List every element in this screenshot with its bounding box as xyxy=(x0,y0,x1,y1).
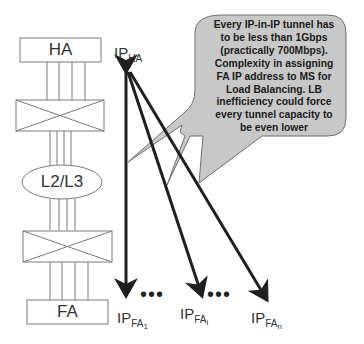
ip-fan-index: n xyxy=(277,322,281,331)
ip-ha-sub: HA xyxy=(128,53,142,64)
switch-box-bottom xyxy=(23,231,112,262)
switch-box-top xyxy=(16,100,104,131)
callout-text: Every IP-in-IP tunnel has to be less tha… xyxy=(208,19,340,135)
ip-fai-label: IPFAi xyxy=(180,305,208,327)
ip-fan-base: IP xyxy=(251,309,265,326)
ip-fai-sub: FA xyxy=(194,314,206,325)
ip-fan-sub: FA xyxy=(265,318,277,329)
ip-fai-index: i xyxy=(206,318,208,327)
ha-links xyxy=(47,62,85,100)
ip-fa1-sub: FA xyxy=(131,318,143,329)
ip-fa1-index: 1 xyxy=(143,322,147,331)
ip-fa1-label: IPFA1 xyxy=(117,309,148,331)
router-to-switch-links xyxy=(50,199,75,230)
ha-label: HA xyxy=(20,40,101,60)
fa-label: FA xyxy=(27,302,108,322)
fa-links xyxy=(50,262,88,300)
ip-ha-base: IP xyxy=(114,44,128,61)
ip-fan-label: IPFAn xyxy=(251,309,282,331)
ellipsis-dots-2: ••• xyxy=(207,284,231,304)
ellipsis-dots-1: ••• xyxy=(140,284,164,304)
ip-ha-label: IPHA xyxy=(114,44,142,64)
switch-to-router-links xyxy=(50,131,71,166)
ip-fai-base: IP xyxy=(180,305,194,322)
ip-fa1-base: IP xyxy=(117,309,131,326)
l2l3-label: L2/L3 xyxy=(22,172,102,192)
